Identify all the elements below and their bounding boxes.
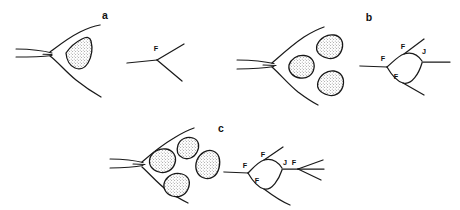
schematic-c-label-F-upper: F: [261, 150, 266, 159]
schematic-c-label-F-lower: F: [255, 176, 260, 185]
organ-blob-c-1: [149, 149, 175, 173]
schematic-c-label-F-proximal: F: [243, 161, 248, 170]
panel-c-label: c: [218, 122, 224, 134]
branching-structure-figure: a F b: [0, 0, 460, 210]
panel-b-label: b: [366, 11, 372, 23]
schematic-b-label-F-upper: F: [401, 42, 406, 51]
schematic-b-label-F-lower: F: [394, 72, 399, 81]
schematic-b-label-F-proximal: F: [381, 54, 386, 63]
organ-blob-b-1: [289, 55, 314, 78]
schematic-c-label-F-distal: F: [292, 158, 297, 167]
schematic-a-label-F: F: [154, 44, 159, 53]
schematic-c-label-J: J: [283, 158, 287, 167]
organ-blob-c-4: [164, 173, 190, 196]
figure-root: a F b: [0, 0, 460, 210]
panel-a-label: a: [102, 9, 108, 21]
figure-background: [0, 0, 460, 210]
schematic-b-label-J: J: [422, 47, 426, 56]
